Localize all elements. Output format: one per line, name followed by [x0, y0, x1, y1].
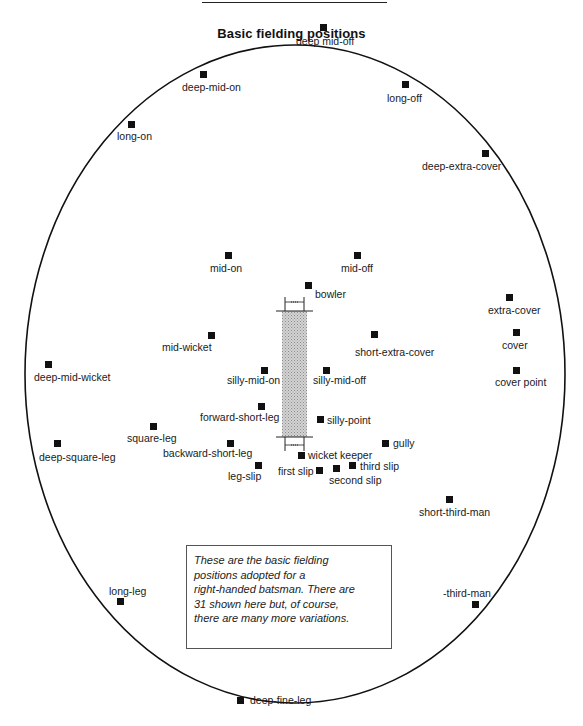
position-label: short-third-man	[419, 506, 490, 518]
fielder-marker-icon	[382, 440, 389, 447]
fielder-marker-icon	[45, 361, 52, 368]
note-line: 31 shown here but, of course,	[194, 597, 391, 612]
note-line: These are the basic fielding	[194, 553, 391, 568]
position-label: silly-mid-off	[313, 374, 366, 386]
position-label: mid-off	[341, 262, 373, 274]
note-line: positions adopted for a	[194, 568, 391, 583]
note-line: there are many more variations.	[194, 611, 391, 626]
fielder-marker-icon	[54, 440, 61, 447]
fielder-marker-icon	[446, 496, 453, 503]
position-label: first slip	[278, 465, 314, 477]
fielder-marker-icon	[513, 329, 520, 336]
explanatory-note: These are the basic fielding positions a…	[186, 545, 392, 649]
fielder-marker-icon	[227, 440, 234, 447]
fielder-marker-icon	[255, 462, 262, 469]
position-label: extra-cover	[488, 304, 541, 316]
pitch-strip	[282, 311, 307, 437]
fielder-marker-icon	[371, 331, 378, 338]
position-label: long-leg	[109, 585, 146, 597]
position-label: third slip	[360, 460, 399, 472]
fielder-marker-icon	[349, 462, 356, 469]
position-label: silly-point	[327, 414, 371, 426]
fielder-marker-icon	[150, 423, 157, 430]
position-label: mid-wicket	[162, 341, 212, 353]
fielder-marker-icon	[261, 367, 268, 374]
fielder-marker-icon	[513, 367, 520, 374]
fielder-marker-icon	[317, 416, 324, 423]
fielder-marker-icon	[298, 452, 305, 459]
fielder-marker-icon	[472, 601, 479, 608]
fielder-marker-icon	[237, 697, 244, 704]
position-label: mid-on	[210, 262, 242, 274]
position-label: cover	[502, 339, 528, 351]
fielder-marker-icon	[323, 367, 330, 374]
fielder-marker-icon	[128, 121, 135, 128]
position-label: bowler	[315, 288, 346, 300]
fielder-marker-icon	[117, 598, 124, 605]
position-label: second slip	[329, 474, 382, 486]
position-label: deep-square-leg	[39, 451, 115, 463]
position-label: long-off	[387, 92, 422, 104]
position-label: deep mid-off	[296, 35, 354, 47]
fielder-marker-icon	[506, 294, 513, 301]
fielder-marker-icon	[200, 71, 207, 78]
fielder-marker-icon	[402, 81, 409, 88]
position-label: cover point	[495, 376, 546, 388]
position-label: gully	[393, 437, 415, 449]
position-label: deep-mid-wicket	[34, 371, 110, 383]
position-label: deep-mid-on	[182, 81, 241, 93]
note-line: right-handed batsman. There are	[194, 582, 391, 597]
position-label: short-extra-cover	[355, 346, 434, 358]
position-label: -third-man	[443, 587, 491, 599]
position-label: long-on	[117, 130, 152, 142]
fielder-marker-icon	[316, 467, 323, 474]
position-label: deep-fine-leg	[250, 694, 311, 706]
position-label: forward-short-leg	[200, 411, 279, 423]
position-label: backward-short-leg	[163, 447, 252, 459]
fielder-marker-icon	[225, 252, 232, 259]
fielder-marker-icon	[258, 403, 265, 410]
position-label: leg-slip	[228, 470, 261, 482]
fielder-marker-icon	[482, 150, 489, 157]
pitch	[276, 297, 313, 451]
position-label: silly-mid-on	[227, 374, 280, 386]
fielder-marker-icon	[320, 24, 327, 31]
fielder-marker-icon	[354, 252, 361, 259]
fielder-marker-icon	[333, 465, 340, 472]
position-label: deep-extra-cover	[422, 160, 501, 172]
fielder-marker-icon	[208, 332, 215, 339]
fielder-marker-icon	[305, 282, 312, 289]
position-label: square-leg	[127, 432, 177, 444]
